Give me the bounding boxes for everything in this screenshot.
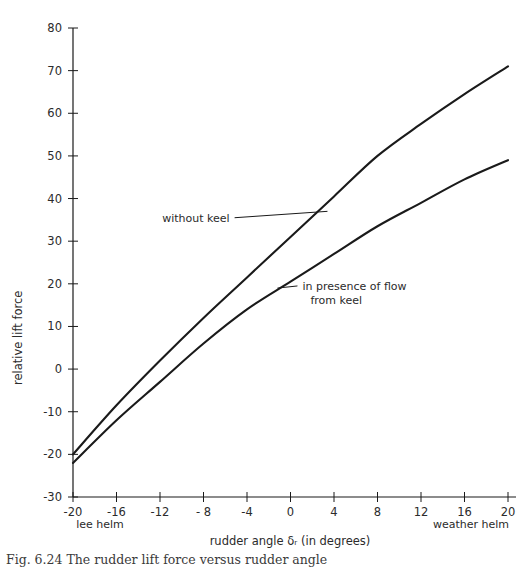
y-tick-label: -30 <box>43 490 62 504</box>
annotation-without-keel: without keel <box>162 212 229 225</box>
y-tick-label: 0 <box>55 362 62 376</box>
y-tick-label: 20 <box>47 277 62 291</box>
y-tick-label: 30 <box>47 234 62 248</box>
x-tick-label: 12 <box>414 505 429 519</box>
figure-container: -30-20-1001020304050607080 -20-16-12- 8-… <box>0 0 532 567</box>
x-tick-label: -12 <box>151 505 170 519</box>
x-tick-label: -16 <box>107 505 126 519</box>
x-tick-label: 16 <box>457 505 472 519</box>
chart-background <box>0 0 532 567</box>
y-tick-label: 80 <box>47 21 62 35</box>
lift-force-chart: -30-20-1001020304050607080 -20-16-12- 8-… <box>0 0 532 567</box>
y-tick-label: 50 <box>47 149 62 163</box>
x-tick-label: -20 <box>64 505 83 519</box>
x-tick-label: 20 <box>501 505 516 519</box>
x-tick-label: 8 <box>374 505 381 519</box>
figure-caption: Fig. 6.24 The rudder lift force versus r… <box>6 552 327 567</box>
weather-helm-label: weather helm <box>433 518 509 531</box>
annotation-flow-from-keel-line1: in presence of flow <box>302 280 406 293</box>
y-tick-label: 60 <box>47 106 62 120</box>
y-tick-label: 40 <box>47 192 62 206</box>
y-tick-label: 70 <box>47 64 62 78</box>
y-tick-label: -20 <box>43 447 62 461</box>
x-tick-label: -4 <box>241 505 252 519</box>
x-axis-title: rudder angle δᵣ (in degrees) <box>210 534 371 548</box>
y-tick-label: -10 <box>43 405 62 419</box>
y-axis-title: relative lift force <box>11 291 25 385</box>
x-tick-label: 0 <box>287 505 294 519</box>
y-tick-label: 10 <box>47 319 62 333</box>
lee-helm-label: lee helm <box>76 518 124 531</box>
x-tick-label: - 8 <box>196 505 211 519</box>
annotation-flow-from-keel-line2: from keel <box>310 294 362 307</box>
x-tick-label: 4 <box>330 505 337 519</box>
